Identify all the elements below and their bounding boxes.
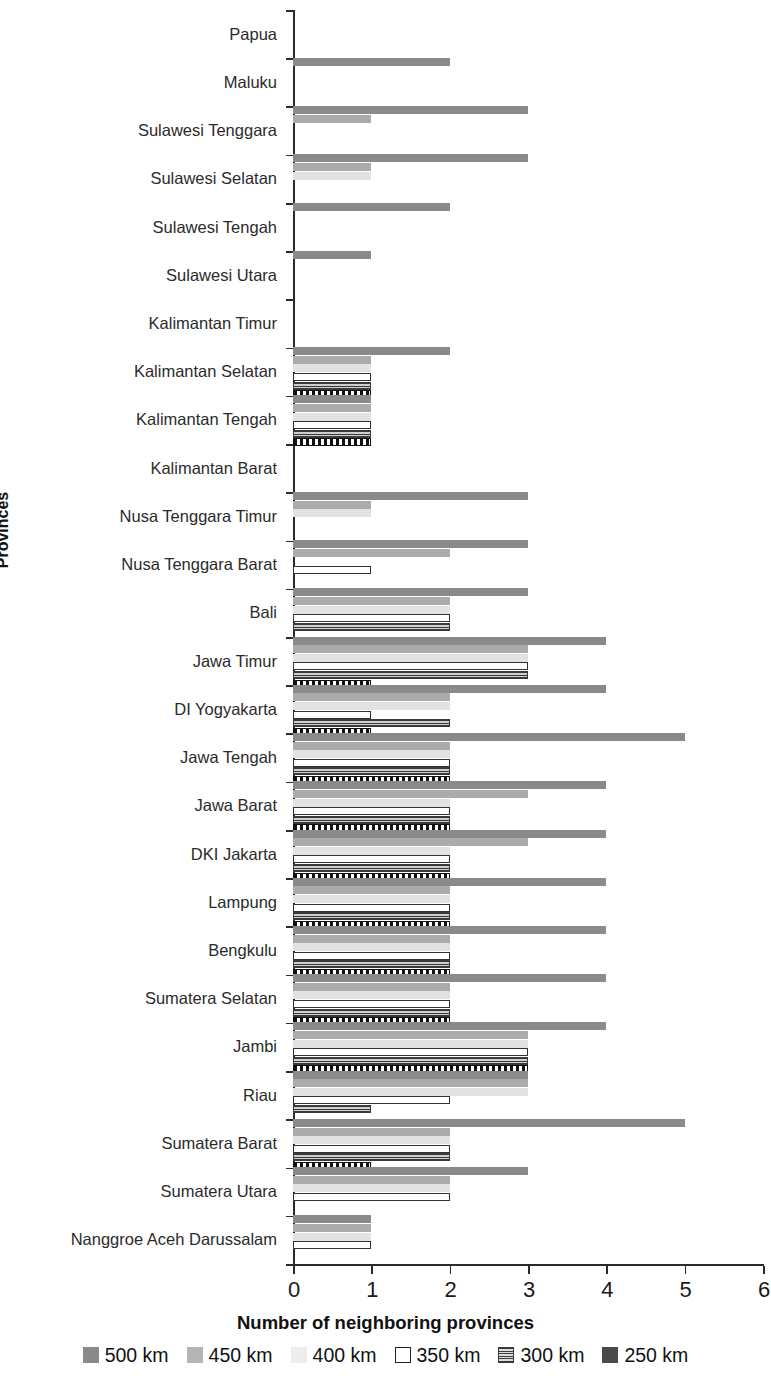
bar	[293, 106, 528, 114]
bar	[293, 895, 450, 903]
y-axis-tick-label: Jambi	[233, 1037, 285, 1056]
y-axis-tick-label: Nusa Tenggara Barat	[121, 555, 285, 574]
y-axis-tick-label: Sumatera Barat	[161, 1134, 285, 1153]
bar	[293, 904, 450, 912]
bar-group	[293, 1168, 763, 1216]
legend-item[interactable]: 450 km	[187, 1344, 273, 1366]
bar	[293, 1048, 528, 1056]
bar	[293, 685, 606, 693]
y-axis-tick	[286, 541, 293, 543]
bar	[293, 597, 450, 605]
y-axis-tick	[286, 1023, 293, 1025]
y-axis-tick	[286, 1119, 293, 1121]
bar	[293, 347, 450, 355]
bar	[293, 830, 606, 838]
legend-swatch-icon	[602, 1347, 618, 1363]
x-axis-tick	[371, 1266, 373, 1274]
bar	[293, 566, 371, 574]
y-axis-tick	[286, 782, 293, 784]
y-axis-tick-label: Lampung	[208, 893, 285, 912]
y-axis-tick-label: Sulawesi Utara	[166, 266, 285, 285]
y-axis-tick	[286, 396, 293, 398]
bar	[293, 759, 450, 767]
bar	[293, 421, 371, 429]
legend-swatch-icon	[83, 1347, 99, 1363]
y-axis-tick	[286, 251, 293, 253]
bar	[293, 838, 528, 846]
bar	[293, 1096, 450, 1104]
legend-item[interactable]: 250 km	[602, 1344, 688, 1366]
y-axis-tick-label: DKI Jakarta	[191, 845, 285, 864]
bar	[293, 1145, 450, 1153]
y-axis-tick-label: Sulawesi Selatan	[150, 169, 285, 188]
x-axis-tick	[763, 1266, 765, 1274]
bar	[293, 662, 528, 670]
bar	[293, 1009, 450, 1017]
y-axis-tick-labels: PapuaMalukuSulawesi TenggaraSulawesi Sel…	[0, 10, 285, 1264]
y-axis-tick	[286, 299, 293, 301]
bar	[293, 974, 606, 982]
x-axis-title: Number of neighboring provinces	[0, 1312, 771, 1334]
y-axis-tick	[286, 1071, 293, 1073]
bar-group	[293, 685, 763, 733]
legend-item[interactable]: 500 km	[83, 1344, 169, 1366]
x-axis-tick-label: 3	[523, 1277, 535, 1303]
legend-item[interactable]: 400 km	[291, 1344, 377, 1366]
plot-area	[293, 10, 763, 1264]
y-axis-tick-label: Sumatera Utara	[161, 1182, 285, 1201]
bar	[293, 614, 450, 622]
y-axis-tick	[286, 1216, 293, 1218]
x-axis-tick	[293, 1266, 295, 1274]
bar	[293, 926, 606, 934]
bar-group	[293, 637, 763, 685]
bar	[293, 864, 450, 872]
bar	[293, 1105, 371, 1113]
bar-group	[293, 589, 763, 637]
bar	[293, 115, 371, 123]
bar	[293, 356, 371, 364]
bar	[293, 886, 450, 894]
y-axis-tick-label: Kalimantan Tengah	[136, 410, 285, 429]
y-axis-tick-label: Nusa Tenggara Timur	[120, 507, 285, 526]
y-axis-tick-label: Papua	[229, 25, 285, 44]
bar	[293, 1176, 450, 1184]
legend-label: 250 km	[624, 1344, 688, 1366]
legend-label: 400 km	[313, 1344, 377, 1366]
x-axis-tick	[450, 1266, 452, 1274]
bar-group	[293, 733, 763, 781]
bar-group	[293, 106, 763, 154]
y-axis-tick	[286, 1264, 293, 1266]
y-axis-tick	[286, 878, 293, 880]
y-axis-tick-label: Kalimantan Barat	[150, 459, 285, 478]
bar	[293, 492, 528, 500]
bar	[293, 588, 528, 596]
x-axis-tick	[528, 1266, 530, 1274]
bar-group	[293, 10, 763, 58]
y-axis-tick	[286, 733, 293, 735]
bar	[293, 983, 450, 991]
y-axis-tick	[286, 203, 293, 205]
x-axis-tick-label: 0	[288, 1277, 300, 1303]
bar	[293, 767, 450, 775]
bar	[293, 1071, 528, 1079]
y-axis-tick-label: Kalimantan Selatan	[134, 362, 285, 381]
bar	[293, 816, 450, 824]
bar	[293, 799, 450, 807]
legend-label: 350 km	[417, 1344, 481, 1366]
bar	[293, 952, 450, 960]
legend-item[interactable]: 300 km	[498, 1344, 584, 1366]
legend-item[interactable]: 350 km	[395, 1344, 481, 1366]
y-axis-tick	[286, 106, 293, 108]
bar-group	[293, 155, 763, 203]
legend-label: 500 km	[105, 1344, 169, 1366]
bar	[293, 878, 606, 886]
bar-group	[293, 348, 763, 396]
x-axis-tick-label: 4	[601, 1277, 613, 1303]
bar	[293, 702, 450, 710]
bar	[293, 1119, 685, 1127]
bar	[293, 1022, 606, 1030]
bar	[293, 693, 450, 701]
y-axis-tick-label: Sumatera Selatan	[145, 989, 285, 1008]
bar	[293, 781, 606, 789]
y-axis-tick	[286, 926, 293, 928]
